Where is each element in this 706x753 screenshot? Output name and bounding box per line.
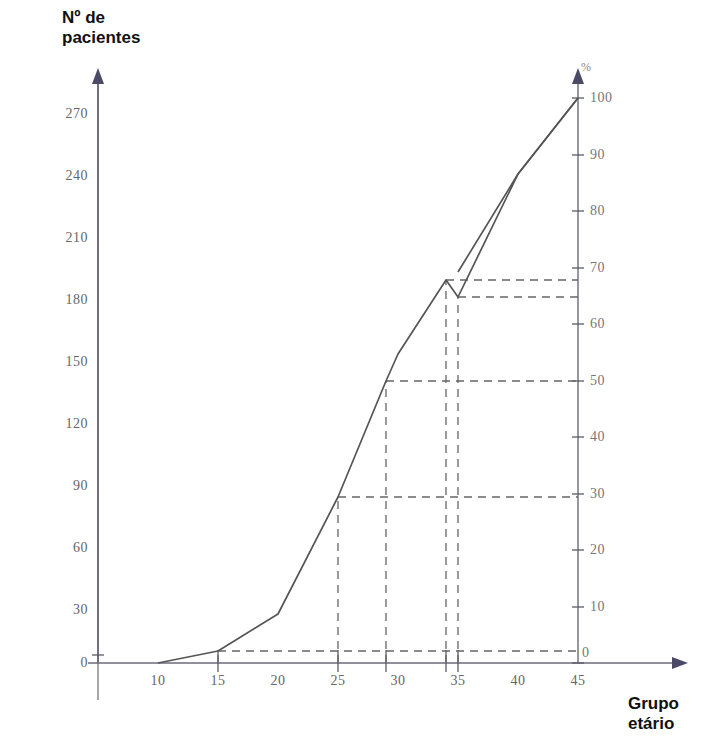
y2-tick-label-90: 90 <box>590 147 605 163</box>
y-tick-label-0: 0 <box>40 655 88 671</box>
y2-tick-label-80: 80 <box>590 203 605 219</box>
cumulative-curve-upper <box>458 98 578 272</box>
y-axis-arrow <box>92 68 104 84</box>
x-axis-arrow <box>672 657 688 669</box>
x-tick-label-35: 35 <box>438 673 478 689</box>
y-tick-label-240: 240 <box>40 168 88 184</box>
reference-lines-group <box>218 280 578 663</box>
y-tick-label-210: 210 <box>40 230 88 246</box>
x-tick-label-30: 30 <box>378 673 418 689</box>
x-tick-label-45: 45 <box>558 673 598 689</box>
y2-tick-label-70: 70 <box>590 260 605 276</box>
y2-axis-arrow <box>572 68 584 84</box>
y2-tick-label-50: 50 <box>590 373 605 389</box>
y-tick-label-270: 270 <box>40 106 88 122</box>
y-tick-label-60: 60 <box>40 540 88 556</box>
chart-figure: Nº de pacientes Grupo etário % <box>0 0 706 753</box>
y-tick-label-120: 120 <box>40 416 88 432</box>
x-tick-label-25: 25 <box>318 673 358 689</box>
y2-tick-label-30: 30 <box>590 486 605 502</box>
y2-tick-label-0: 0 <box>582 645 590 661</box>
x-tick-label-10: 10 <box>138 673 178 689</box>
x-tick-label-20: 20 <box>258 673 298 689</box>
y2-tick-label-40: 40 <box>590 429 605 445</box>
y2-tick-label-10: 10 <box>590 599 605 615</box>
y2-tick-label-20: 20 <box>590 542 605 558</box>
y-tick-label-150: 150 <box>40 354 88 370</box>
x-tick-label-15: 15 <box>198 673 238 689</box>
y2-tick-label-100: 100 <box>590 90 613 106</box>
y-tick-label-30: 30 <box>40 602 88 618</box>
y2-tick-label-60: 60 <box>590 316 605 332</box>
x-tick-label-40: 40 <box>498 673 538 689</box>
y-tick-label-90: 90 <box>40 478 88 494</box>
y-tick-label-180: 180 <box>40 292 88 308</box>
